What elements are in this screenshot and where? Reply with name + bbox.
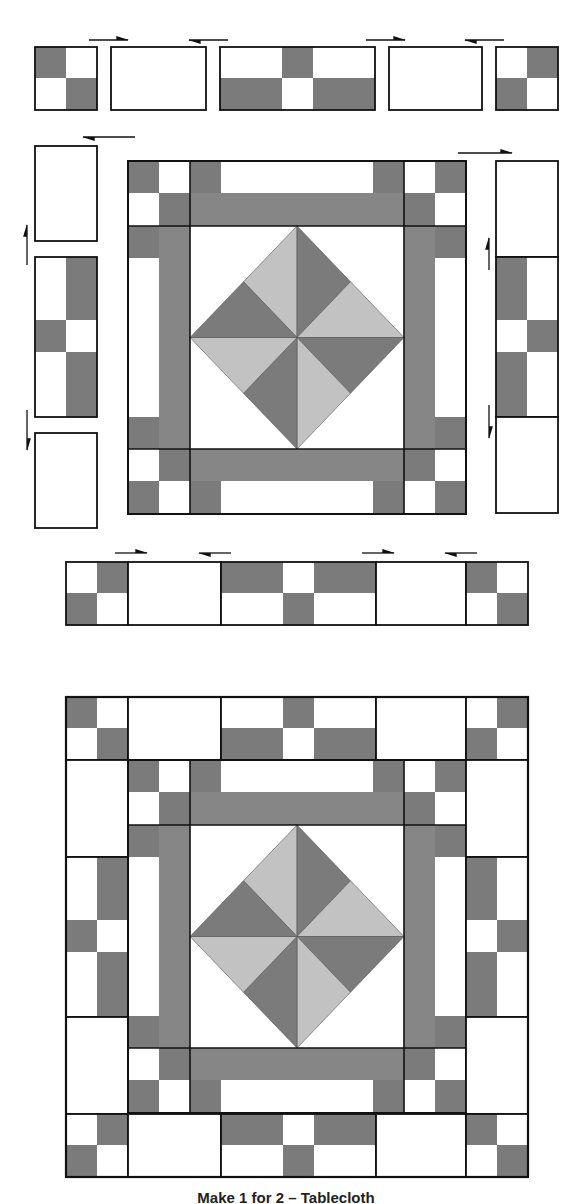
plain-rectangle-piece — [376, 562, 466, 625]
four-patch-piece — [66, 562, 128, 625]
plain-rectangle-piece — [496, 417, 558, 513]
patched-strip-piece — [35, 257, 97, 417]
quilt-assembly-diagram — [0, 0, 572, 1204]
right-column — [496, 161, 558, 513]
top-row — [35, 47, 558, 110]
patched-strip-piece — [496, 257, 558, 417]
plain-rectangle-piece — [128, 562, 221, 625]
plain-rectangle-piece — [496, 161, 558, 257]
assembled-quilt — [66, 697, 528, 1177]
three-block-strip-piece — [220, 47, 375, 110]
exploded-view — [27, 40, 558, 625]
four-patch-piece — [35, 47, 97, 110]
bottom-row — [66, 562, 528, 625]
plain-rectangle-piece — [35, 433, 97, 528]
four-patch-piece — [466, 562, 528, 625]
plain-rectangle-piece — [111, 47, 206, 110]
plain-rectangle-piece — [35, 146, 97, 241]
plain-rectangle-piece — [389, 47, 482, 110]
four-patch-piece — [496, 47, 558, 110]
three-block-strip-piece — [221, 562, 376, 625]
pinwheel-diamond-center-block — [128, 161, 466, 514]
diagram-caption: Make 1 for 2 – Tablecloth — [0, 1190, 572, 1204]
left-column — [35, 146, 97, 528]
